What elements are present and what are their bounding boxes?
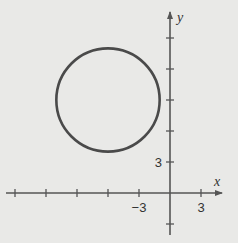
x-tick-label: 3: [197, 200, 204, 215]
y-axis-label: y: [175, 10, 184, 25]
x-tick-label: −3: [132, 200, 147, 215]
plotted-shapes: [56, 48, 159, 151]
y-tick-label: 3: [155, 155, 162, 170]
x-axis-label: x: [213, 174, 221, 189]
circle-curve: [56, 48, 159, 151]
coordinate-plane: −333 x y: [0, 0, 238, 243]
tick-labels: −333: [132, 155, 205, 215]
